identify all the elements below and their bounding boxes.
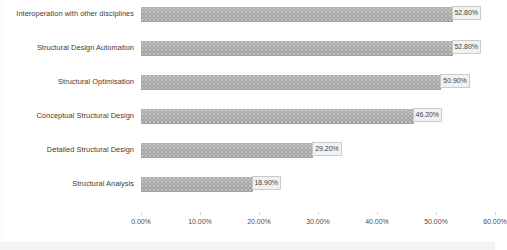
- bar-value-label: 29.20%: [312, 142, 341, 156]
- chart-row: Structural Analysis18.90%: [0, 170, 495, 204]
- x-axis-tick-label: 60.00%: [483, 217, 506, 226]
- scan-bottom-artifact: [0, 242, 495, 250]
- x-axis-tick-label: 0.00%: [131, 217, 151, 226]
- x-axis-tick-label: 40.00%: [365, 217, 388, 226]
- bar: [141, 75, 441, 90]
- bar-group: 29.20%: [141, 143, 313, 158]
- x-axis-tick-label: 30.00%: [306, 217, 329, 226]
- chart-row: Interoperation with other disciplines52.…: [0, 0, 495, 34]
- category-label: Structural Design Automation: [0, 43, 134, 52]
- category-label: Interoperation with other disciplines: [0, 9, 134, 18]
- category-label: Detailed Structural Design: [0, 145, 134, 154]
- category-label: Structural Analysis: [0, 179, 134, 188]
- x-axis-tick-mark: [436, 212, 437, 215]
- bar-group: 52.80%: [141, 7, 453, 22]
- bar: [141, 109, 414, 124]
- bar: [141, 143, 313, 158]
- chart-row: Conceptual Structural Design46.20%: [0, 102, 495, 136]
- x-axis-tick-mark: [200, 212, 201, 215]
- bar: [141, 7, 453, 22]
- bar-group: 50.90%: [141, 75, 441, 90]
- x-axis-tick-label: 20.00%: [247, 217, 270, 226]
- bar-value-label: 50.90%: [440, 74, 469, 88]
- category-label: Structural Optimisation: [0, 77, 134, 86]
- bar-value-label: 18.90%: [252, 176, 281, 190]
- bar-group: 46.20%: [141, 109, 414, 124]
- chart-row: Structural Design Automation52.80%: [0, 34, 495, 68]
- x-axis-tick-mark: [259, 212, 260, 215]
- chart-row: Structural Optimisation50.90%: [0, 68, 495, 102]
- x-axis-tick-mark: [141, 212, 142, 215]
- x-axis: 0.00%10.00%20.00%30.00%40.00%50.00%60.00…: [0, 212, 495, 238]
- bar: [141, 177, 253, 192]
- x-axis-tick-mark: [318, 212, 319, 215]
- category-label: Conceptual Structural Design: [0, 111, 134, 120]
- chart-row: Detailed Structural Design29.20%: [0, 136, 495, 170]
- x-axis-tick-label: 10.00%: [188, 217, 211, 226]
- x-axis-tick-label: 50.00%: [424, 217, 447, 226]
- bar: [141, 41, 453, 56]
- bar-value-label: 46.20%: [413, 108, 442, 122]
- x-axis-tick-mark: [377, 212, 378, 215]
- bar-value-label: 52.80%: [452, 6, 481, 20]
- bar-value-label: 52.80%: [452, 40, 481, 54]
- bar-group: 52.80%: [141, 41, 453, 56]
- x-axis-tick-mark: [495, 212, 496, 215]
- bar-group: 18.90%: [141, 177, 253, 192]
